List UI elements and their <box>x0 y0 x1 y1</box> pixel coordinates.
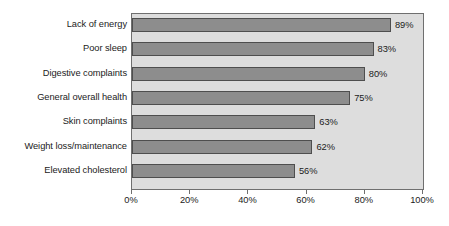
category-axis: Lack of energyPoor sleepDigestive compla… <box>0 13 127 188</box>
x-tick-label: 80% <box>355 195 373 205</box>
bar <box>132 18 391 32</box>
x-axis-tick-marks <box>131 189 423 194</box>
category-label: Weight loss/maintenance <box>0 141 127 151</box>
x-tick-mark <box>306 189 307 194</box>
x-tick-mark <box>131 189 132 194</box>
x-tick-label: 60% <box>296 195 314 205</box>
x-tick-mark <box>364 189 365 194</box>
category-label: Poor sleep <box>0 43 127 53</box>
category-label: Elevated cholesterol <box>0 165 127 175</box>
category-label: Lack of energy <box>0 19 127 29</box>
bar <box>132 140 312 154</box>
category-label: Skin complaints <box>0 116 127 126</box>
bar <box>132 164 295 178</box>
category-label: General overall health <box>0 92 127 102</box>
x-tick-label: 20% <box>180 195 198 205</box>
bar <box>132 67 365 81</box>
x-tick-mark <box>247 189 248 194</box>
x-tick-label: 40% <box>238 195 256 205</box>
x-tick-mark <box>189 189 190 194</box>
bar-value-label: 80% <box>369 67 387 81</box>
plot-area: 89%83%80%75%63%62%56% <box>131 13 424 190</box>
x-axis-tick-labels: 0%20%40%60%80%100% <box>0 195 449 211</box>
bar-value-label: 89% <box>395 18 413 32</box>
bar-value-label: 56% <box>299 164 317 178</box>
x-tick-label: 100% <box>410 195 434 205</box>
bar <box>132 42 374 56</box>
x-tick-label: 0% <box>124 195 137 205</box>
bar-value-label: 63% <box>319 115 337 129</box>
bar-value-label: 83% <box>378 42 396 56</box>
category-label: Digestive complaints <box>0 68 127 78</box>
bar-chart: Lack of energyPoor sleepDigestive compla… <box>0 0 449 226</box>
bar <box>132 115 315 129</box>
x-tick-mark <box>422 189 423 194</box>
bar-value-label: 62% <box>316 140 334 154</box>
bar <box>132 91 350 105</box>
bar-value-label: 75% <box>354 91 372 105</box>
